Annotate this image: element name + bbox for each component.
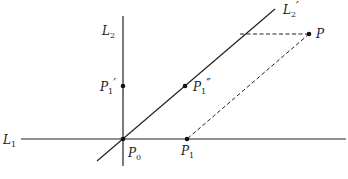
- point-p1: [185, 137, 190, 142]
- point-p1-prime: [121, 84, 126, 89]
- label-p0: P0: [127, 146, 141, 162]
- diagram-canvas: L1 L2 L2′ P0 P1 P1′ P1″ P: [0, 0, 348, 179]
- point-p0: [121, 137, 126, 142]
- label-l1: L1: [2, 133, 16, 149]
- point-p1-double-prime: [183, 84, 188, 89]
- label-p: P: [315, 27, 325, 41]
- point-p: [307, 32, 312, 37]
- label-p1-double-prime: P1″: [192, 77, 211, 96]
- label-l2: L2: [101, 24, 115, 40]
- label-p1: P1: [180, 144, 194, 160]
- label-l2-prime: L2′: [282, 0, 299, 19]
- label-p1-prime: P1′: [99, 77, 116, 96]
